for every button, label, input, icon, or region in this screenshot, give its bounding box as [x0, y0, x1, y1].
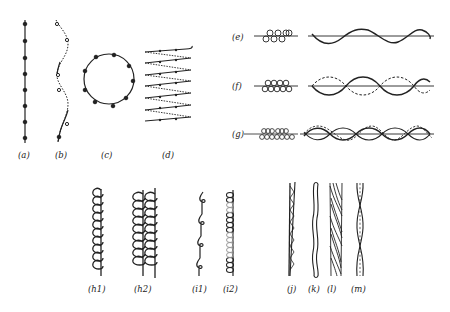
panel-e-label: (e)	[232, 32, 244, 42]
panel-f-double-wave	[308, 77, 434, 95]
panel-b-wavy-chain	[55, 20, 68, 142]
panel-h1-coil	[93, 188, 103, 276]
panel-e-single-wave	[308, 29, 434, 43]
panel-h2-double-coil	[133, 188, 157, 278]
panel-i1-loose-coil	[197, 192, 205, 276]
panel-c-ring	[83, 53, 135, 108]
panel-h1-label: (h1)	[88, 284, 106, 294]
panel-i2-label: (i2)	[223, 284, 238, 294]
panel-i2-tight-coil	[227, 190, 234, 276]
panel-f-label: (f)	[232, 81, 242, 91]
panel-d-label: (d)	[162, 150, 174, 160]
panel-a-straight-chain	[23, 20, 27, 143]
panel-m-label: (m)	[351, 284, 366, 294]
panel-m-twisted-rope	[357, 183, 364, 276]
panel-l-label: (l)	[327, 284, 336, 294]
panel-g-coil-endview	[244, 129, 298, 140]
panel-g-label: (g)	[232, 129, 244, 139]
diagram-canvas: (a) (b) (c)	[0, 0, 450, 312]
panel-f-coil-endview	[254, 80, 298, 92]
panel-e-coil-endview	[254, 30, 298, 42]
panel-k-label: (k)	[308, 284, 320, 294]
panel-b-label: (b)	[55, 150, 67, 160]
panel-l-twisted-cable	[330, 183, 342, 276]
panel-g-triple-wave	[300, 126, 434, 140]
panel-h2-label: (h2)	[134, 284, 152, 294]
panel-j-label: (j)	[287, 284, 296, 294]
panel-d-folded-chain	[145, 46, 192, 121]
panel-c-label: (c)	[101, 150, 112, 160]
panel-a-label: (a)	[18, 150, 30, 160]
panel-j-crosslinked-strand	[289, 182, 295, 276]
panel-k-wavy-rod	[312, 183, 318, 278]
panel-i1-label: (i1)	[192, 284, 207, 294]
